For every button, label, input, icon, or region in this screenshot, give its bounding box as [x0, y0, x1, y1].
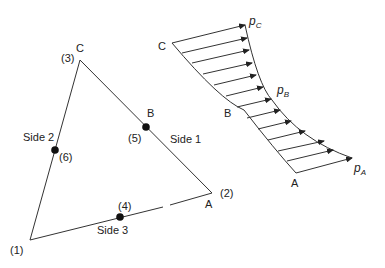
side-3-label: Side 3	[97, 224, 128, 236]
pressure-c-label: pC	[248, 14, 262, 30]
edge-b-label: B	[224, 107, 231, 119]
node-4-label: (4)	[118, 200, 131, 212]
edge-c-label: C	[158, 40, 166, 52]
side-2-label: Side 2	[23, 131, 54, 143]
node-6-label: (6)	[59, 151, 72, 163]
pressure-distribution	[172, 25, 352, 173]
pressure-b-label: pB	[276, 83, 290, 99]
pressure-arrows	[172, 25, 352, 173]
point-b-label: B	[147, 107, 154, 119]
diagram-canvas: (1) (2) A (3) C (4) (5) B (6) Side 1 Sid…	[0, 0, 385, 268]
point-a-label: A	[205, 198, 213, 210]
node-5-label: (5)	[128, 132, 141, 144]
pressure-a-label: pA	[353, 161, 366, 177]
node-6-dot	[51, 146, 59, 154]
pressure-envelope	[245, 25, 352, 158]
node-2-label: (2)	[220, 187, 233, 199]
node-3-label: (3)	[61, 52, 74, 64]
triangle-element	[30, 60, 212, 240]
node-5-dot	[142, 123, 150, 131]
point-c-label: C	[76, 42, 84, 54]
node-1-label: (1)	[10, 244, 23, 256]
side-1-label: Side 1	[170, 133, 201, 145]
node-4-dot	[116, 213, 124, 221]
edge-a-label: A	[291, 177, 299, 189]
